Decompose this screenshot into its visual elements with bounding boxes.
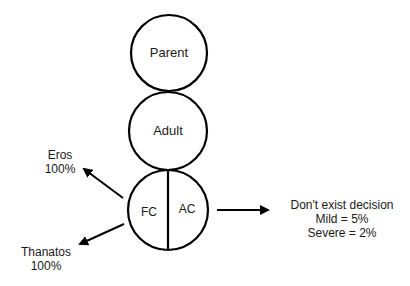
adult-label: Adult	[138, 124, 198, 138]
decision-title: Don't exist decision	[280, 198, 404, 212]
thanatos-arrow	[80, 224, 124, 244]
eros-name: Eros	[42, 148, 78, 162]
thanatos-value: 100%	[26, 259, 66, 273]
parent-label: Parent	[139, 46, 199, 60]
eros-value: 100%	[40, 162, 80, 176]
decision-severe: Severe = 2%	[280, 226, 404, 240]
eros-arrow	[84, 169, 123, 198]
fc-label: FC	[136, 205, 162, 219]
ac-label: AC	[174, 202, 200, 216]
decision-mild: Mild = 5%	[280, 212, 404, 226]
thanatos-name: Thanatos	[20, 245, 72, 259]
diagram-canvas	[0, 0, 410, 286]
